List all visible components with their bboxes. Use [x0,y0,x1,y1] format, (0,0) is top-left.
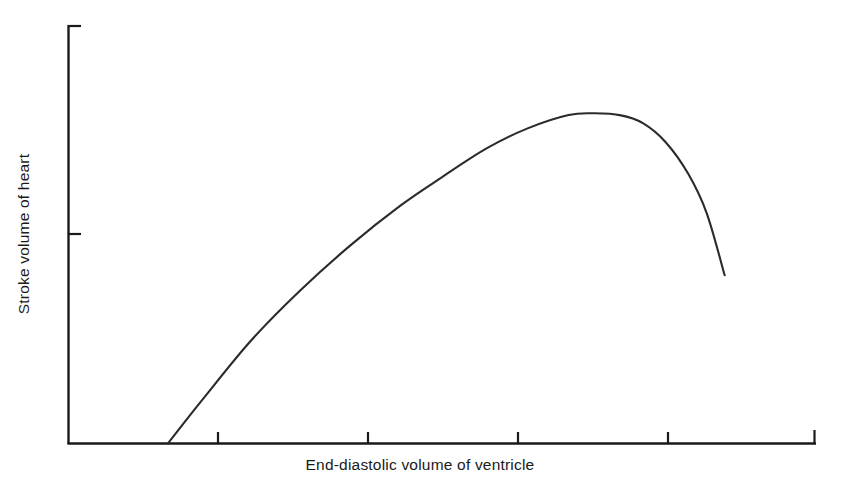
frank-starling-curve [168,113,725,443]
y-axis-label: Stroke volume of heart [15,153,32,314]
figure-container: End-diastolic volume of ventricle Stroke… [0,0,841,485]
frank-starling-chart: End-diastolic volume of ventricle Stroke… [0,0,841,485]
x-axis-label: End-diastolic volume of ventricle [306,456,535,473]
